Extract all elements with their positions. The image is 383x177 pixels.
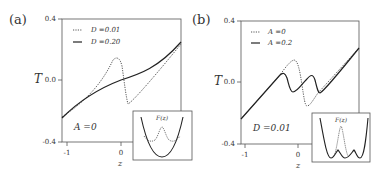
panel-a-ylabel: T — [34, 72, 43, 86]
panel-b-label: (b) — [192, 12, 210, 27]
panel-a-xlabel: z — [117, 159, 123, 168]
panel-a-ytick-label-bottom: -0.4 — [43, 138, 57, 146]
panel-b-legend-solid-label: A =0.2 — [267, 39, 293, 47]
panel-a: (a) 0.4 0.0 -0.4 -1 0 T z D =0.01 D =0.2… — [9, 12, 192, 168]
panel-b-inset-title: F(z) — [334, 116, 348, 123]
panel-b-xtick-label-zero: 0 — [296, 151, 300, 159]
panel-a-legend-dotted-label: D =0.01 — [90, 26, 120, 34]
panel-a-series-dotted — [62, 44, 181, 117]
panel-a-inset-title: F(z) — [155, 114, 169, 121]
panel-a-annotation: A =0 — [73, 122, 97, 132]
panel-b-ylabel: T — [214, 74, 223, 88]
panel-b-ytick-label-top: 0.4 — [224, 17, 236, 25]
panel-b-legend-dotted-label: A =0 — [267, 28, 286, 36]
panel-a-ytick-label-mid: 0.0 — [45, 76, 56, 84]
panel-a-ytick-label-top: 0.4 — [45, 15, 57, 23]
panel-b-xtick-label-m1: -1 — [242, 151, 249, 159]
panel-b-series-dotted — [241, 48, 359, 119]
panel-a-legend-solid-label: D =0.20 — [90, 38, 121, 46]
panel-a-series-solid — [62, 42, 181, 118]
panel-b-xlabel: z — [295, 161, 301, 170]
panel-a-xtick-label-m1: -1 — [64, 149, 71, 157]
panel-b-ytick-label-bottom: -0.4 — [222, 140, 236, 148]
panel-a-xtick-label-zero: 0 — [119, 149, 123, 157]
figure: (a) 0.4 0.0 -0.4 -1 0 T z D =0.01 D =0.2… — [0, 0, 383, 177]
panel-b-annotation: D =0.01 — [252, 123, 291, 133]
panel-a-inset: F(z) — [133, 111, 192, 160]
panel-b-ytick-label-mid: 0.0 — [224, 78, 235, 86]
panel-b-series-solid — [241, 48, 359, 119]
panel-a-label: (a) — [9, 12, 27, 27]
panel-b-inset: F(z) — [312, 113, 370, 162]
panel-b: (b) 0.4 0.0 -0.4 -1 0 T z A =0 A =0.2 D … — [192, 12, 370, 170]
